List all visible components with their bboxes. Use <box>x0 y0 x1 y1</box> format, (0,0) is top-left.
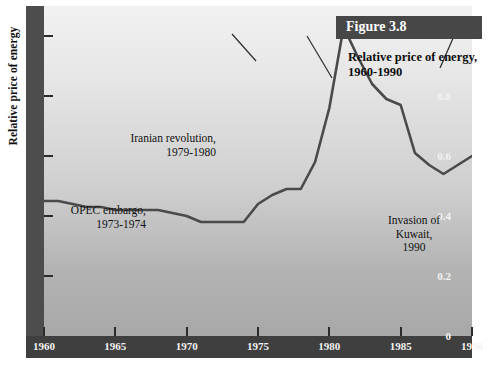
y-tick-label-0.6: 0.6 <box>423 150 451 162</box>
x-tick-mark-1980 <box>328 327 330 336</box>
x-tick-label-1965: 1965 <box>89 340 141 352</box>
figure-tag-label: Figure 3.8 <box>346 19 406 35</box>
y-axis-band <box>26 6 44 358</box>
figure-title: Relative price of energy,1960-1990 <box>348 50 494 80</box>
y-tick-mark-0.6 <box>44 155 53 157</box>
y-tick-label-0.8: 0.8 <box>423 90 451 102</box>
x-tick-label-1975: 1975 <box>232 340 284 352</box>
x-tick-label-1960: 1960 <box>18 340 70 352</box>
figure-tag-block: Figure 3.8 <box>336 16 482 39</box>
y-axis-title: Relative price of energy <box>7 11 19 161</box>
x-tick-mark-1970 <box>186 327 188 336</box>
annotation-invasion-of-kuwait: Invasion ofKuwait,1990 <box>388 214 440 255</box>
x-tick-mark-1990 <box>471 327 473 336</box>
leader-line-opec <box>232 34 256 61</box>
x-tick-mark-1965 <box>114 327 116 336</box>
x-tick-label-1985: 1985 <box>375 340 427 352</box>
x-tick-label-1990: 1990 <box>446 340 494 352</box>
y-tick-mark-1.0 <box>44 35 53 37</box>
y-tick-mark-0.2 <box>44 275 53 277</box>
chart-block: 00.20.40.60.81.0 19601965197019751980198… <box>26 6 472 358</box>
y-tick-mark-0.4 <box>44 215 53 217</box>
x-tick-label-1970: 1970 <box>161 340 213 352</box>
annotation-opec-embargo: OPEC embargo,1973-1974 <box>71 204 146 231</box>
annotation-iranian-revolution: Iranian revolution,1979-1980 <box>130 132 216 159</box>
x-tick-mark-1975 <box>257 327 259 336</box>
y-tick-label-0.2: 0.2 <box>423 270 451 282</box>
y-tick-mark-0.8 <box>44 95 53 97</box>
leader-line-iran <box>307 36 332 78</box>
x-tick-mark-1960 <box>43 327 45 336</box>
x-tick-label-1980: 1980 <box>303 340 355 352</box>
x-tick-mark-1985 <box>400 327 402 336</box>
figure-3-8: Relative price of energy 00.20.40.60.81.… <box>0 0 494 369</box>
